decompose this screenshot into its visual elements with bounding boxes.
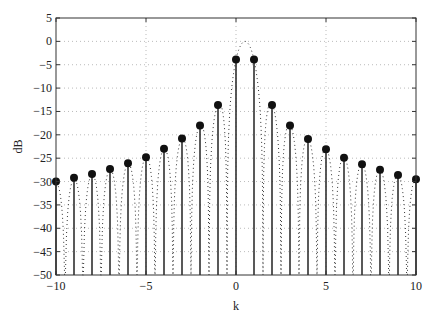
y-tick-label: −15 [33,104,52,118]
y-tick-label: 5 [46,11,52,25]
y-tick-label: −5 [39,58,52,72]
x-tick-label: 0 [233,279,239,293]
stem-marker [394,171,402,179]
stem-marker [70,174,78,182]
stem-marker [376,166,384,174]
stem-marker [250,56,258,64]
chart-svg: −10−5051050−5−10−15−20−25−30−35−40−45−50… [0,0,435,325]
y-tick-label: −25 [33,151,52,165]
stem-marker [304,135,312,143]
x-tick-label: 5 [323,279,329,293]
stem-marker [214,101,222,109]
stem-marker [160,145,168,153]
stem-marker [88,170,96,178]
y-tick-label: −50 [33,268,52,282]
stem-marker [340,154,348,162]
stem-marker [286,121,294,129]
x-tick-label: 10 [410,279,422,293]
stem-marker [358,160,366,168]
x-tick-label: −5 [140,279,153,293]
y-tick-label: −30 [33,175,52,189]
y-tick-label: 0 [46,34,52,48]
y-axis-label: dB [11,139,25,153]
x-axis-label: k [233,299,239,313]
stem-marker [232,56,240,64]
stem-marker [178,135,186,143]
y-tick-label: −20 [33,128,52,142]
y-tick-label: −35 [33,198,52,212]
y-tick-label: −45 [33,245,52,259]
stem-marker [322,145,330,153]
stem-marker [268,101,276,109]
stem-chart: −10−5051050−5−10−15−20−25−30−35−40−45−50… [0,0,435,325]
stem-marker [196,121,204,129]
y-tick-label: −40 [33,221,52,235]
stem-marker [124,159,132,167]
y-tick-label: −10 [33,81,52,95]
stem-marker [142,153,150,161]
stem-marker [106,165,114,173]
